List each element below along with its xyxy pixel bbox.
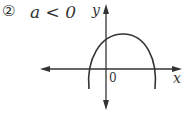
- x-axis-left-arrow-icon: [40, 66, 50, 72]
- parabola-curve: [89, 34, 156, 89]
- y-axis-up-arrow-icon: [103, 4, 109, 14]
- graph: [0, 0, 189, 116]
- x-axis-right-arrow-icon: [172, 66, 182, 72]
- y-axis-down-arrow-icon: [103, 100, 109, 110]
